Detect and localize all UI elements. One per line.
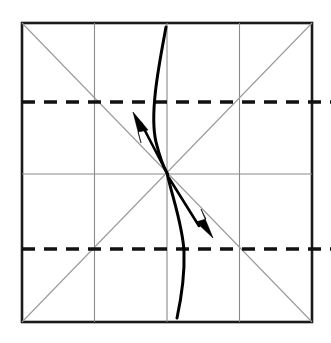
origami-canvas xyxy=(0,0,331,343)
origami-diagram xyxy=(0,0,331,343)
